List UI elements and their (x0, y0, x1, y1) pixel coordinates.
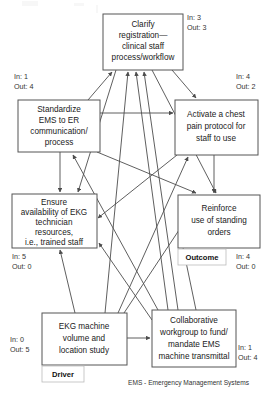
node-ensure-line-1: availability of EKG (21, 208, 87, 217)
node-ensure-out-count: Out: 0 (12, 262, 32, 271)
node-collaborative-line-3: machine transmittal (159, 352, 230, 361)
node-ensure-in-count: In: 5 (12, 252, 26, 261)
node-clarify-in-count: In: 3 (187, 13, 201, 22)
node-clarify-line-1: registration— (119, 31, 169, 40)
edge-ekg-to-ensure (60, 250, 75, 313)
node-ekg-tag-label: Driver (52, 370, 74, 379)
node-ekg-out-count: Out: 5 (10, 345, 30, 354)
node-ensure-line-0: Ensure (41, 198, 67, 207)
node-clarify-line-0: Clarify (131, 20, 155, 29)
node-standardize-line-0: Standardize (37, 105, 81, 114)
node-collaborative[interactable]: Collaborative workgroup to fund/ mandate… (152, 310, 258, 367)
node-reinforce-in-count: In: 4 (236, 252, 250, 261)
node-reinforce-tag-label: Outcome (186, 253, 219, 262)
node-collaborative-line-2: mandate EMS (168, 340, 220, 349)
node-standardize-line-2: communication/ (30, 127, 88, 136)
node-ensure-line-4: i.e., trained staff (25, 238, 84, 247)
node-reinforce-line-0: Reinforce (201, 204, 236, 213)
node-collaborative-in-count: In: 1 (238, 343, 252, 352)
node-ekg-line-2: location study (59, 346, 110, 355)
node-clarify-line-2: clinical staff (122, 42, 165, 51)
node-clarify-line-3: process/workflow (112, 53, 175, 62)
node-activate-line-0: Activate a chest (187, 110, 246, 119)
node-ensure-line-2: technician (36, 218, 73, 227)
node-standardize-line-3: process (45, 138, 74, 147)
node-ensure[interactable]: Ensure availability of EKG technician re… (12, 194, 97, 271)
node-standardize-line-1: EMS to ER (39, 116, 80, 125)
node-activate-in-count: In: 4 (236, 72, 250, 81)
node-collaborative-line-0: Collaborative (170, 316, 218, 325)
node-clarify-out-count: Out: 3 (187, 23, 207, 32)
node-collaborative-out-count: Out: 4 (238, 353, 258, 362)
node-standardize-in-count: In: 1 (14, 72, 28, 81)
edge-collaborative-to-clarify (136, 72, 168, 310)
edge-clarify-to-activate (172, 70, 196, 98)
edge-ekg-to-clarify (105, 72, 128, 313)
node-reinforce-line-2: orders (207, 228, 230, 237)
node-reinforce-out-count: Out: 0 (236, 262, 256, 271)
node-activate[interactable]: Activate a chest pain protocol for staff… (175, 72, 258, 155)
node-standardize-out-count: Out: 4 (14, 82, 34, 91)
interrelationship-digraph: Clarify registration— clinical staff pro… (0, 0, 275, 393)
node-reinforce-line-1: use of standing (191, 216, 247, 225)
node-activate-line-2: staff to use (196, 134, 236, 143)
node-ekg-line-1: volume and (63, 334, 106, 343)
node-ekg-in-count: In: 0 (10, 335, 24, 344)
node-ekg[interactable]: EKG machine volume and location study Dr… (10, 313, 127, 382)
node-activate-out-count: Out: 2 (236, 82, 256, 91)
node-clarify[interactable]: Clarify registration— clinical staff pro… (103, 13, 207, 70)
node-reinforce[interactable]: Reinforce use of standing orders Outcome… (178, 195, 260, 271)
footer-legend: EMS - Emergency Management Systems (128, 379, 250, 387)
node-standardize[interactable]: Standardize EMS to ER communication/ pro… (14, 72, 100, 152)
node-ensure-line-3: resources, (35, 228, 73, 237)
node-ekg-line-0: EKG machine (59, 322, 110, 331)
scan-artifact (22, 1, 98, 13)
node-collaborative-line-1: workgroup to fund/ (159, 328, 229, 337)
node-activate-line-1: pain protocol for (187, 122, 246, 131)
